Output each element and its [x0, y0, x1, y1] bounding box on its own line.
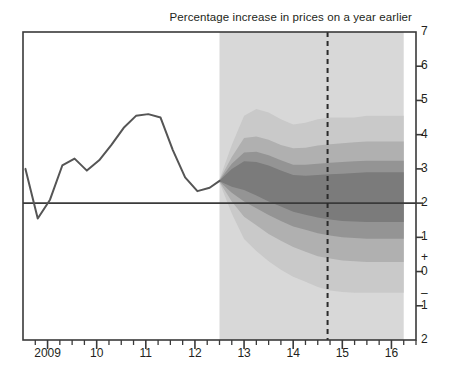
y-axis-tick-label: 2	[421, 332, 428, 346]
chart-plot-area	[0, 0, 453, 383]
y-axis-plus-sign: +	[421, 251, 428, 263]
x-axis-tick-label: 15	[320, 346, 364, 360]
y-axis-tick-label: 7	[421, 24, 428, 38]
y-axis-tick-label: 2	[421, 195, 428, 209]
y-axis-tick-label: 1	[421, 229, 428, 243]
x-axis-tick-label: 13	[222, 346, 266, 360]
y-axis-tick-label: 4	[421, 127, 428, 141]
x-axis-tick-label: 16	[369, 346, 413, 360]
x-axis-tick-label: 2009	[26, 346, 70, 360]
y-axis-tick-label: 1	[421, 298, 428, 312]
y-axis-minus-sign: –	[421, 287, 428, 299]
x-axis-tick-label: 14	[271, 346, 315, 360]
x-axis-tick-label: 12	[173, 346, 217, 360]
y-axis-tick-label: 6	[421, 58, 428, 72]
y-axis-tick-label: 0	[421, 264, 428, 278]
x-axis-tick-label: 10	[75, 346, 119, 360]
x-axis-tick-label: 11	[124, 346, 168, 360]
fan-chart: Percentage increase in prices on a year …	[0, 0, 453, 383]
y-axis-tick-label: 3	[421, 161, 428, 175]
y-axis-tick-label: 5	[421, 92, 428, 106]
